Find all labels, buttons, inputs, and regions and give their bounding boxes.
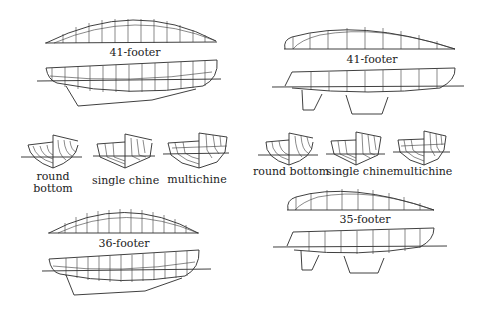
label-left-36-footer: 36-footer [92,238,156,250]
label-left-single-chine: single chine [92,175,158,187]
left-36-plan-view [48,209,199,233]
right-35-profile-view [273,228,447,273]
hull-lines-diagram [0,0,478,313]
left-section-single-chine [93,134,155,168]
label-right-round-bottom: round bottom [253,166,325,178]
right-35-plan-view [287,189,434,210]
label-left-round-bottom-line2: bottom [26,183,80,195]
right-section-single-chine [326,132,385,165]
label-left-41-footer: 41-footer [103,47,167,59]
label-right-single-chine: single chine [326,166,386,178]
left-41-plan-view [45,19,217,43]
label-right-41-footer: 41-footer [340,54,404,66]
left-36-profile-view [42,250,211,295]
label-right-multichine: multichine [393,166,451,178]
right-section-multichine [393,131,450,165]
right-41-profile-view [272,68,464,114]
label-right-35-footer: 35-footer [333,214,397,226]
label-left-multichine: multichine [165,174,229,186]
right-41-plan-view [284,27,455,49]
right-section-round-bottom [258,133,318,165]
left-section-multichine [163,133,229,168]
left-41-profile-view [37,60,221,106]
left-section-round-bottom [21,135,82,168]
